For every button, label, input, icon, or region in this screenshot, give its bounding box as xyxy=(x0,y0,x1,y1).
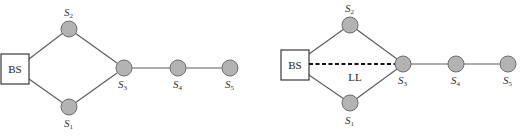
label-s1: S1 xyxy=(345,114,355,128)
label-s5: S5 xyxy=(503,74,513,88)
node-s2 xyxy=(342,17,358,33)
edge-bs-s1 xyxy=(29,79,63,103)
node-s4 xyxy=(170,60,186,76)
node-s3 xyxy=(116,60,132,76)
label-s2: S2 xyxy=(64,6,74,20)
edge-s1-s3 xyxy=(356,69,397,99)
edge-bs-s1 xyxy=(309,75,344,99)
base-station-label: BS xyxy=(288,59,301,71)
node-s1 xyxy=(61,99,77,115)
node-s1 xyxy=(342,95,358,111)
edge-bs-s2 xyxy=(29,33,63,59)
node-s4 xyxy=(448,56,464,72)
node-s3 xyxy=(395,56,411,72)
diagram-left: BS S2 S1 S3 S4 S5 xyxy=(1,6,238,131)
node-s5 xyxy=(222,60,238,76)
label-s5: S5 xyxy=(225,78,235,92)
edge-s1-s3 xyxy=(75,73,117,103)
label-s4: S4 xyxy=(451,74,461,88)
long-link-label: LL xyxy=(348,71,362,83)
edge-s2-s3 xyxy=(75,33,117,63)
node-s5 xyxy=(500,56,516,72)
base-station-label: BS xyxy=(8,63,21,75)
label-s1: S1 xyxy=(64,117,74,131)
edge-bs-s2 xyxy=(309,29,344,54)
label-s2: S2 xyxy=(345,2,355,16)
edge-s2-s3 xyxy=(356,29,397,59)
node-s2 xyxy=(61,21,77,37)
label-s3: S3 xyxy=(118,78,128,92)
label-s4: S4 xyxy=(173,78,183,92)
diagram-canvas: BS S2 S1 S3 S4 S5 LL BS S2 S1 S3 S4 S5 xyxy=(0,0,523,137)
label-s3: S3 xyxy=(398,74,408,88)
diagram-right: LL BS S2 S1 S3 S4 S5 xyxy=(281,2,516,128)
